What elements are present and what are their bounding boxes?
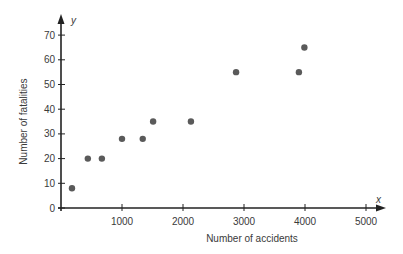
y-axis-variable: y: [70, 15, 77, 26]
y-tick-label: 50: [44, 79, 56, 90]
data-point: [140, 136, 146, 142]
y-axis-title: Number of fatalities: [18, 78, 29, 164]
x-tick-label: 4000: [294, 216, 317, 227]
data-point: [150, 118, 156, 124]
x-axis-variable: x: [375, 194, 382, 205]
data-point: [233, 69, 239, 75]
y-axis-arrow-icon: [58, 14, 65, 24]
y-tick-label: 10: [44, 178, 56, 189]
scatter-chart: 010203040506070 10002000300040005000 y x…: [0, 0, 403, 254]
x-tick-label: 3000: [233, 216, 256, 227]
x-tick-label: 1000: [111, 216, 134, 227]
data-points: [69, 44, 308, 191]
data-point: [296, 69, 302, 75]
data-point: [119, 136, 125, 142]
y-tick-label: 20: [44, 153, 56, 164]
y-tick-label: 60: [44, 54, 56, 65]
y-tick-label: 30: [44, 128, 56, 139]
data-point: [85, 155, 91, 161]
data-point: [188, 118, 194, 124]
y-tick-label: 0: [49, 203, 55, 214]
y-tick-label: 70: [44, 30, 56, 41]
data-point: [99, 155, 105, 161]
x-axis-title: Number of accidents: [206, 233, 298, 244]
x-tick-label: 5000: [355, 216, 378, 227]
data-point: [301, 44, 307, 50]
x-tick-label: 2000: [172, 216, 195, 227]
y-axis-ticks: 010203040506070: [44, 30, 65, 214]
data-point: [69, 185, 75, 191]
x-axis-arrow-icon: [376, 205, 386, 212]
y-tick-label: 40: [44, 104, 56, 115]
